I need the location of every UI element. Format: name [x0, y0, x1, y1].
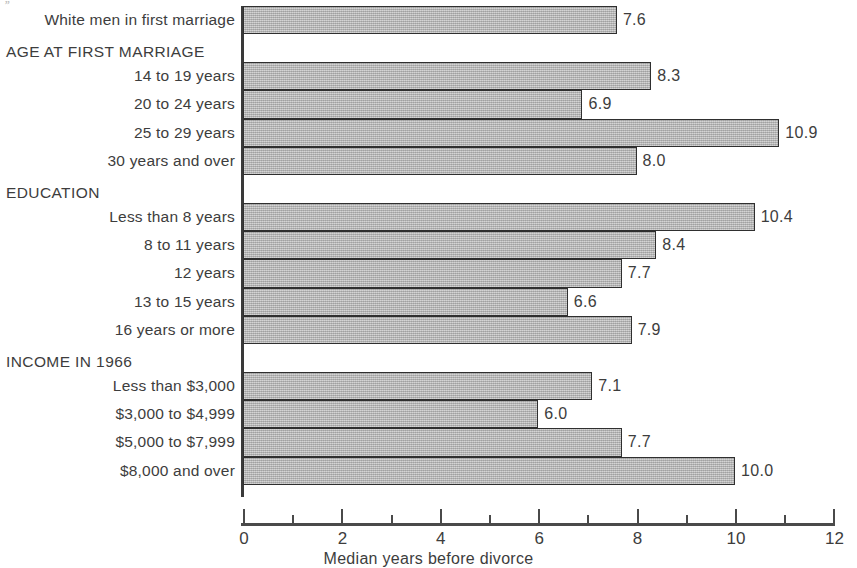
bar-value-label: 6.6	[574, 293, 597, 311]
bar-value-label: 8.0	[643, 152, 666, 170]
axis-tick-label: 4	[436, 529, 445, 549]
bar-row-label: 30 years and over	[108, 152, 235, 170]
bar-row: White men in first marriage7.6	[0, 6, 857, 34]
axis-tick-major	[833, 509, 835, 524]
plot-area: White men in first marriage7.6AGE AT FIR…	[0, 0, 857, 500]
bar-row-label: $8,000 and over	[120, 462, 235, 480]
bar-row-label: 16 years or more	[115, 321, 235, 339]
bar[interactable]	[243, 231, 656, 259]
axis-tick-label: 6	[534, 529, 543, 549]
bar[interactable]	[243, 457, 735, 485]
x-axis-title: Median years before divorce	[0, 550, 857, 568]
bar-row-label: 8 to 11 years	[144, 236, 235, 254]
group-header: INCOME IN 1966	[6, 353, 132, 371]
bar-row: Less than 8 years10.4	[0, 203, 857, 231]
axis-tick-major	[440, 509, 442, 524]
axis-tick-label: 2	[338, 529, 347, 549]
bar-value-label: 7.9	[638, 321, 661, 339]
bar[interactable]	[243, 288, 568, 316]
axis-tick-minor	[784, 515, 786, 524]
bar-row: 12 years7.7	[0, 259, 857, 287]
bar-row-label: 13 to 15 years	[134, 293, 235, 311]
bar[interactable]	[243, 62, 651, 90]
bar-value-label: 7.6	[623, 11, 646, 29]
bar-row-label: 14 to 19 years	[134, 67, 235, 85]
bar-value-label: 6.9	[588, 95, 611, 113]
bar[interactable]	[243, 147, 637, 175]
axis-tick-label: 8	[633, 529, 642, 549]
bar-row-label: $3,000 to $4,999	[115, 405, 235, 423]
bar-value-label: 7.7	[628, 264, 651, 282]
bar[interactable]	[243, 316, 632, 344]
bar-row: Less than $3,0007.1	[0, 372, 857, 400]
axis-tick-label: 0	[239, 529, 248, 549]
bar[interactable]	[243, 90, 582, 118]
bar[interactable]	[243, 119, 779, 147]
bar-row-label: 25 to 29 years	[134, 124, 235, 142]
axis-tick-major	[735, 509, 737, 524]
axis-tick-major	[637, 509, 639, 524]
axis-tick-minor	[686, 515, 688, 524]
axis-tick-major	[243, 509, 245, 524]
axis-tick-label: 10	[727, 529, 746, 549]
axis-tick-minor	[292, 515, 294, 524]
bar-row-label: $5,000 to $7,999	[115, 433, 235, 451]
bar-row: 20 to 24 years6.9	[0, 90, 857, 118]
bar-value-label: 10.4	[761, 208, 793, 226]
bar-row-label: Less than 8 years	[109, 208, 235, 226]
axis-tick-minor	[587, 515, 589, 524]
group-header: AGE AT FIRST MARRIAGE	[6, 43, 205, 61]
bar-row: $3,000 to $4,9996.0	[0, 400, 857, 428]
axis-tick-minor	[489, 515, 491, 524]
bar-row: 25 to 29 years10.9	[0, 119, 857, 147]
bar-value-label: 7.1	[598, 377, 621, 395]
bar[interactable]	[243, 400, 538, 428]
bar[interactable]	[243, 428, 622, 456]
bar-row: $8,000 and over10.0	[0, 457, 857, 485]
bar-row: 14 to 19 years8.3	[0, 62, 857, 90]
bar[interactable]	[243, 259, 622, 287]
bar-row-label: 12 years	[174, 264, 235, 282]
bar-row: $5,000 to $7,9997.7	[0, 428, 857, 456]
bar[interactable]	[243, 372, 592, 400]
bar-row: 8 to 11 years8.4	[0, 231, 857, 259]
group-header: EDUCATION	[6, 184, 100, 202]
axis-tick-major	[341, 509, 343, 524]
bar-row-label: 20 to 24 years	[134, 95, 235, 113]
bar-row-label: Less than $3,000	[113, 377, 235, 395]
bar[interactable]	[243, 6, 617, 34]
bar-value-label: 6.0	[544, 405, 567, 423]
bar-row-label: White men in first marriage	[44, 11, 235, 29]
bar-value-label: 10.0	[741, 462, 773, 480]
axis-tick-label: 12	[825, 529, 844, 549]
bar-value-label: 8.4	[662, 236, 685, 254]
bar-value-label: 8.3	[657, 67, 680, 85]
axis-tick-major	[538, 509, 540, 524]
bar-value-label: 7.7	[628, 433, 651, 451]
axis-tick-minor	[391, 515, 393, 524]
bar-row: 30 years and over8.0	[0, 147, 857, 175]
bar-row: 13 to 15 years6.6	[0, 288, 857, 316]
bar-row: 16 years or more7.9	[0, 316, 857, 344]
bar-value-label: 10.9	[785, 124, 817, 142]
bar[interactable]	[243, 203, 755, 231]
